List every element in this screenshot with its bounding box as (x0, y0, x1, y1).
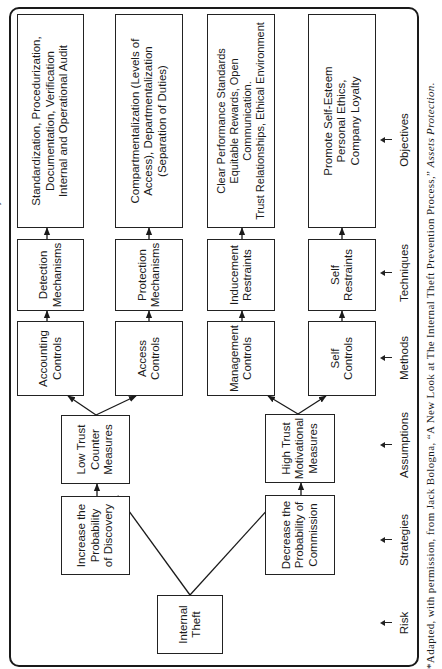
rotated-diagram-stage: An Internal Theft Prevention System* (0, 0, 442, 669)
node-objective-access: Compartmentalization (Levels ofAccess), … (115, 14, 183, 228)
column-label-methods: Methods (398, 318, 410, 398)
node-low-trust-counter-measures: Low TrustCounterMeasures (61, 415, 130, 484)
column-label-objectives: Objectives (398, 100, 410, 180)
column-label-risk: Risk (398, 583, 410, 663)
arrow-up-icon (383, 539, 392, 540)
arrow-up-icon (383, 622, 392, 623)
arrow-up-icon (383, 139, 392, 140)
column-label-assumptions: Assumptions (398, 405, 410, 485)
arrow-up-icon (383, 357, 392, 358)
node-objective-self: Promote Self-EsteemPersonal Ethics,Compa… (308, 14, 376, 228)
node-detection-mechanisms: DetectionMechanisms (17, 239, 84, 311)
node-self-restraints: SelfRestraints (308, 239, 376, 311)
node-inducement-restraints: InducementRestraints (207, 239, 275, 311)
node-access-controls: AccessControls (115, 321, 183, 396)
node-management-controls: ManagementControls (207, 321, 275, 396)
arrow-up-icon (383, 272, 392, 273)
node-protection-mechanisms: ProtectionMechanisms (115, 239, 183, 311)
node-objective-accounting: Standardization, Procedurization,Documen… (17, 14, 84, 228)
node-accounting-controls: AccountingControls (17, 321, 84, 396)
node-high-trust-motivational-measures: High TrustMotivationalMeasures (265, 414, 335, 483)
node-internal-theft: InternalTheft (157, 595, 223, 654)
node-decrease-probability-commission: Decrease theProbability ofCommission (265, 495, 335, 575)
footnote-citation: *Adapted, with permission, from Jack Bol… (424, 0, 436, 669)
node-objective-management: Clear Performance StandardsEquitable Rew… (207, 14, 275, 228)
node-increase-probability-discovery: Increase theProbabilityof Discovery (61, 496, 130, 575)
arrow-up-icon (383, 444, 392, 445)
column-label-strategies: Strategies (398, 500, 410, 580)
column-label-techniques: Techniques (398, 233, 410, 313)
node-self-controls: SelfControls (308, 321, 376, 396)
